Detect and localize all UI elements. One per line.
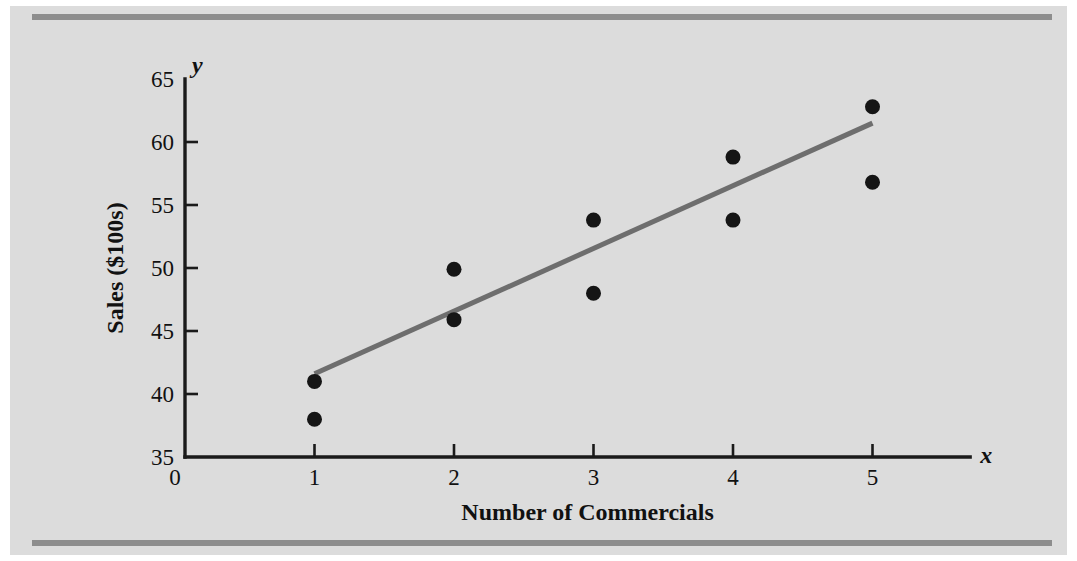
figure-page: 35404550556065 012345 y x Number of Comm… (0, 0, 1077, 561)
data-point (586, 213, 601, 228)
x-tick-label: 3 (588, 465, 600, 490)
plot-area: 35404550556065 012345 y x Number of Comm… (10, 6, 1067, 555)
y-tick-label: 65 (151, 67, 174, 92)
x-tick-label: 4 (727, 465, 739, 490)
data-point (447, 262, 462, 277)
ticks-group (185, 142, 873, 457)
data-points (307, 99, 880, 426)
y-axis-title: Sales ($100s) (102, 202, 128, 333)
y-tick-label: 40 (151, 382, 174, 407)
data-point (726, 150, 741, 165)
data-point (865, 175, 880, 190)
y-tick-label: 55 (151, 193, 174, 218)
axes-group (185, 79, 970, 457)
data-point (447, 312, 462, 327)
x-axis-title: Number of Commercials (461, 499, 713, 525)
x-tick-label: 1 (309, 465, 321, 490)
x-tick-label: 5 (867, 465, 879, 490)
figure-panel: 35404550556065 012345 y x Number of Comm… (10, 6, 1067, 555)
data-point (726, 213, 741, 228)
x-tick-labels: 012345 (169, 465, 878, 490)
y-tick-label: 45 (151, 319, 174, 344)
x-tick-label: 0 (169, 465, 181, 490)
data-point (307, 412, 322, 427)
y-tick-labels: 35404550556065 (151, 67, 174, 470)
data-point (865, 99, 880, 114)
scatter-plot-svg: 35404550556065 012345 y x Number of Comm… (10, 6, 1067, 555)
x-tick-label: 2 (448, 465, 460, 490)
y-tick-label: 50 (151, 256, 174, 281)
y-tick-label: 60 (151, 130, 174, 155)
data-point (586, 286, 601, 301)
data-point (307, 374, 322, 389)
regression-line (315, 123, 873, 374)
y-axis-symbol: y (189, 52, 203, 78)
x-axis-symbol: x (979, 442, 992, 468)
